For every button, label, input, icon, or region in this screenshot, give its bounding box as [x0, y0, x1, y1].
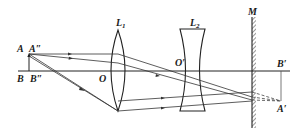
- label-l1: L1: [115, 17, 126, 30]
- plane-mirror-m: [252, 17, 256, 128]
- light-rays: [29, 53, 281, 112]
- label-m: M: [247, 6, 258, 17]
- object-arrow: [27, 53, 30, 71]
- label-l2: L2: [189, 17, 200, 30]
- label-b-double-prime: B″: [29, 73, 42, 84]
- label-b: B: [16, 73, 24, 84]
- label-a-prime: A′: [276, 103, 287, 114]
- optics-diagram: A A″ B B″ O O′ L1 L2 M B′ A′: [0, 0, 308, 134]
- label-a: A: [16, 43, 24, 54]
- lens-l2: [180, 29, 205, 111]
- label-o-prime: O′: [175, 57, 185, 68]
- label-b-prime: B′: [276, 58, 287, 69]
- label-a-double-prime: A″: [28, 43, 41, 54]
- label-o: O: [99, 73, 106, 84]
